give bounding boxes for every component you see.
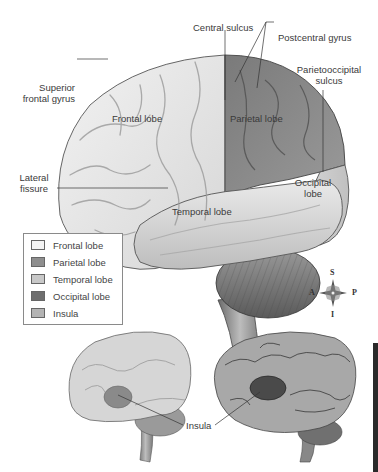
label-insula: Insula — [186, 420, 211, 431]
label-postcentral-gyrus: Postcentral gyrus — [278, 32, 351, 43]
label-central-sulcus: Central sulcus — [193, 22, 253, 33]
legend-label: Frontal lobe — [53, 240, 103, 251]
label-occipital-lobe-line1: Occipital — [288, 177, 338, 188]
compass-rose — [319, 279, 347, 307]
page-edge-bar — [373, 343, 378, 472]
legend-item-temporal: Temporal lobe — [31, 272, 113, 286]
label-parietooccipital-sulcus-line1: Parietooccipital — [289, 64, 369, 75]
compass-anterior: A — [309, 288, 315, 297]
legend-item-frontal: Frontal lobe — [31, 238, 103, 252]
label-superior-frontal-gyrus-line2: frontal gyrus — [0, 93, 75, 104]
insula-brain-illustration — [69, 332, 191, 462]
legend-swatch — [31, 274, 45, 284]
compass-posterior: P — [352, 288, 357, 297]
legend-item-insula: Insula — [31, 306, 78, 320]
legend-label: Occipital lobe — [53, 291, 110, 302]
legend-swatch — [31, 308, 45, 318]
insula-opening — [250, 376, 286, 400]
legend-label: Insula — [53, 308, 78, 319]
compass-superior: S — [330, 268, 334, 277]
legend-swatch — [31, 291, 45, 301]
compass-inferior: I — [331, 310, 334, 319]
label-parietal-lobe: Parietal lobe — [230, 113, 283, 124]
dissected-brain-photo — [214, 332, 355, 462]
label-frontal-lobe: Frontal lobe — [112, 113, 162, 124]
label-lateral-fissure-line1: Lateral — [14, 172, 54, 183]
legend-item-occipital: Occipital lobe — [31, 289, 110, 303]
legend-swatch — [31, 240, 45, 250]
label-lateral-fissure-line2: fissure — [14, 183, 54, 194]
label-occipital-lobe-line2: lobe — [288, 188, 338, 199]
label-superior-frontal-gyrus-line1: Superior — [0, 82, 75, 93]
label-temporal-lobe: Temporal lobe — [172, 206, 232, 217]
legend-label: Temporal lobe — [53, 274, 113, 285]
legend-item-parietal: Parietal lobe — [31, 255, 106, 269]
legend-swatch — [31, 257, 45, 267]
label-parietooccipital-sulcus-line2: sulcus — [289, 75, 369, 86]
legend-label: Parietal lobe — [53, 257, 106, 268]
insula-region — [104, 386, 132, 408]
legend: Frontal lobe Parietal lobe Temporal lobe… — [23, 233, 123, 325]
